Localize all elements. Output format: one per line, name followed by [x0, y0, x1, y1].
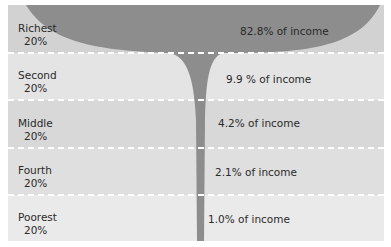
- category-name: Fourth: [18, 164, 52, 176]
- value-label-richest: 82.8% of income: [240, 25, 329, 37]
- population-share: 20%: [18, 130, 53, 143]
- category-name: Second: [18, 69, 57, 81]
- income-distribution-funnel-chart: Richest 20% Second 20% Middle 20% Fourth…: [8, 5, 384, 241]
- category-label-middle: Middle 20%: [18, 117, 53, 143]
- value-label-second: 9.9 % of income: [226, 73, 311, 85]
- population-share: 20%: [18, 177, 52, 190]
- value-label-fourth: 2.1% of income: [215, 166, 297, 178]
- category-name: Poorest: [18, 211, 57, 223]
- population-share: 20%: [18, 82, 57, 95]
- funnel-shape: [8, 5, 384, 241]
- category-label-second: Second 20%: [18, 69, 57, 95]
- category-name: Middle: [18, 117, 53, 129]
- population-share: 20%: [18, 35, 57, 48]
- category-label-fourth: Fourth 20%: [18, 164, 52, 190]
- value-label-poorest: 1.0% of income: [208, 213, 290, 225]
- population-share: 20%: [18, 224, 57, 237]
- category-label-richest: Richest 20%: [18, 22, 57, 48]
- category-label-poorest: Poorest 20%: [18, 211, 57, 237]
- value-label-middle: 4.2% of income: [218, 117, 300, 129]
- category-name: Richest: [18, 22, 57, 34]
